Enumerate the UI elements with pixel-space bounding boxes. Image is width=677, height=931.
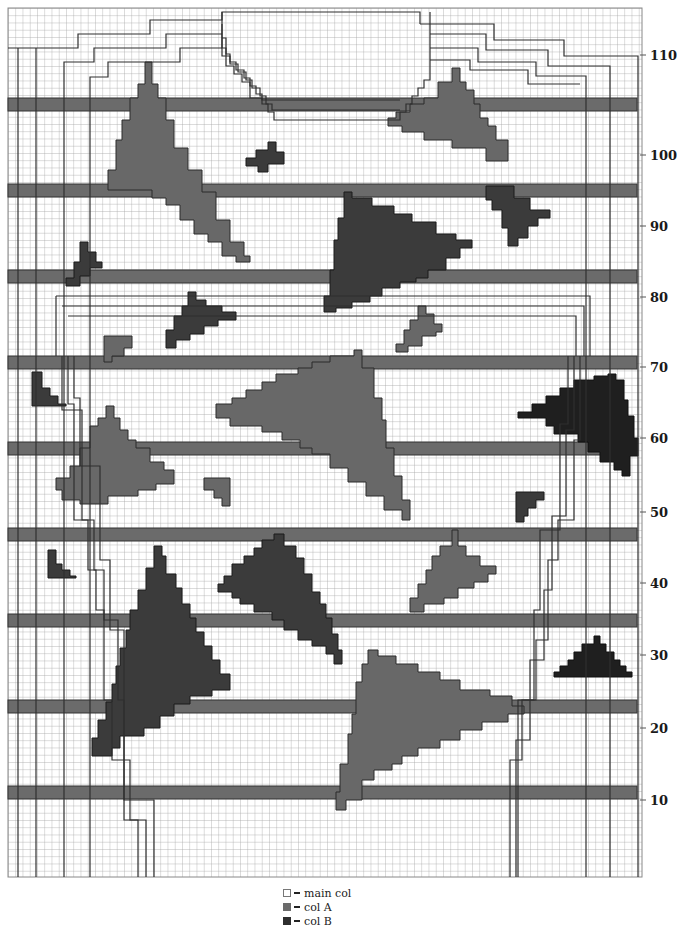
- band-row-12: [8, 786, 637, 799]
- row-label-80: 80: [650, 290, 668, 305]
- legend: main col col A col B: [283, 886, 351, 928]
- row-label-30: 30: [650, 648, 668, 663]
- main-col-swatch-icon: [283, 889, 291, 897]
- legend-label-col-a: col A: [304, 901, 332, 914]
- row-label-110: 110: [650, 48, 677, 63]
- row-label-60: 60: [650, 431, 668, 446]
- row-label-20: 20: [650, 721, 668, 736]
- row-label-10: 10: [650, 793, 668, 808]
- legend-item-col-a: col A: [283, 900, 351, 914]
- legend-label-main-col: main col: [304, 887, 351, 900]
- legend-label-col-b: col B: [304, 915, 332, 928]
- legend-item-main-col: main col: [283, 886, 351, 900]
- dash-icon: [294, 906, 300, 908]
- band-row-24: [8, 700, 637, 713]
- col-b-swatch-icon: [283, 917, 291, 925]
- band-row-96: [8, 184, 637, 197]
- band-row-84: [8, 270, 637, 283]
- dash-icon: [294, 920, 300, 922]
- row-label-90: 90: [650, 219, 668, 234]
- dash-icon: [294, 892, 300, 894]
- row-label-40: 40: [650, 576, 668, 591]
- row-label-70: 70: [650, 360, 668, 375]
- col-a-swatch-icon: [283, 903, 291, 911]
- row-label-50: 50: [650, 505, 668, 520]
- row-label-100: 100: [650, 148, 677, 163]
- legend-item-col-b: col B: [283, 914, 351, 928]
